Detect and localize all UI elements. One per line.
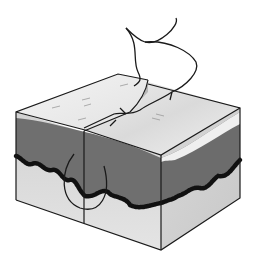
skin-block-diagram bbox=[0, 0, 253, 263]
skin-suture-illustration: Illustration of a simple interrupted sut… bbox=[0, 0, 253, 263]
